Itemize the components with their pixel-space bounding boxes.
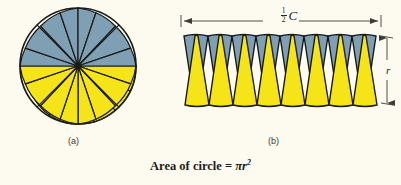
- panel-a-circle: [16, 4, 148, 132]
- panel-a-label: (a): [68, 136, 79, 146]
- caption-formula-exponent: 2: [247, 158, 251, 167]
- circle-center-point: [75, 63, 80, 68]
- wedge-strip: [184, 35, 377, 107]
- circle-top-half-blue: [20, 8, 136, 66]
- half-circumference-label: 1 2 C: [272, 7, 306, 24]
- circle-diagram-svg: [16, 4, 148, 132]
- radius-label: r: [386, 64, 390, 76]
- circle-bottom-half-wedges: [20, 66, 136, 124]
- panel-b-label: (b): [268, 136, 279, 146]
- caption-formula-base: πr: [235, 159, 247, 173]
- caption-text: Area of circle =: [150, 159, 235, 173]
- one-half-fraction: 1 2: [281, 7, 287, 24]
- figure-caption: Area of circle = πr2: [0, 158, 401, 174]
- figure-container: (a): [0, 0, 401, 185]
- fraction-denominator: 2: [281, 16, 287, 24]
- circumference-symbol: C: [287, 8, 298, 23]
